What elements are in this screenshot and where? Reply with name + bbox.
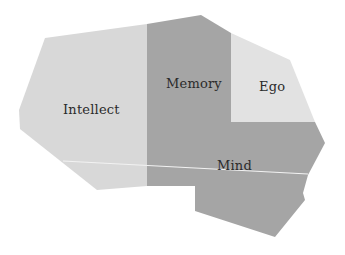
diagram-canvas [0,0,345,255]
region-ego [231,33,315,122]
brain-region-diagram: Intellect Memory Ego Mind [0,0,345,255]
region-memory [147,15,231,122]
label-ego: Ego [259,79,285,94]
label-mind: Mind [217,158,252,173]
label-intellect: Intellect [63,102,120,117]
region-mind [147,122,325,237]
label-memory: Memory [166,76,222,91]
